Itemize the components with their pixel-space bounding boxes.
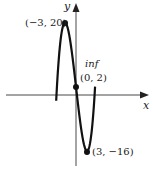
x-axis-arrow-icon	[140, 92, 149, 99]
min-point-label: (3, −16)	[92, 147, 134, 157]
inflection-tag: inf	[85, 59, 98, 69]
x-axis-label: x	[143, 100, 149, 111]
inflection-point-marker	[73, 84, 79, 90]
y-axis-arrow-icon	[73, 3, 80, 12]
min-point-marker	[84, 149, 90, 155]
max-point-label: (−3, 20)	[25, 18, 67, 28]
inflection-point-label: (0, 2)	[80, 73, 107, 83]
cubic-graph	[0, 0, 153, 169]
y-axis-label: y	[64, 1, 70, 12]
